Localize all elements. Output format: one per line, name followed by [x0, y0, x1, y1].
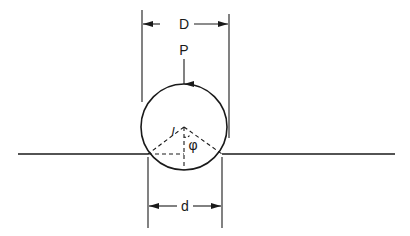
D-label: D	[179, 16, 189, 32]
slant-line-left	[148, 127, 184, 154]
d-dimension	[148, 157, 222, 228]
P-label: P	[179, 42, 188, 58]
sphere-in-hole-diagram: D P l φ d	[0, 0, 410, 236]
construction-lines	[148, 127, 222, 170]
phi-label: φ	[188, 137, 197, 153]
l-label: l	[172, 124, 176, 139]
d-label: d	[181, 198, 189, 214]
